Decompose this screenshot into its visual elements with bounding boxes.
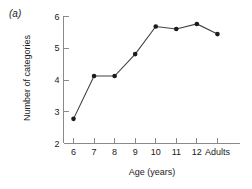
data-point [92, 74, 97, 79]
data-series [71, 22, 220, 122]
data-point [133, 52, 138, 57]
x-tick-labels: 6789101112Adults [71, 147, 230, 157]
data-point [195, 22, 200, 27]
y-tick-marks [64, 17, 69, 144]
x-axis: 6789101112Adults [64, 138, 241, 157]
y-tick-label: 5 [54, 43, 59, 53]
x-tick-marks [74, 138, 218, 143]
line-chart-plot: 23456 6789101112Adults [0, 0, 252, 189]
x-tick-label: 12 [192, 147, 202, 157]
series-line [74, 24, 218, 119]
y-tick-label: 3 [54, 107, 59, 117]
data-point [153, 24, 158, 29]
x-tick-label: 7 [92, 147, 97, 157]
x-tick-label: 11 [172, 147, 181, 157]
x-tick-label: 6 [71, 147, 76, 157]
y-axis: 23456 [54, 12, 68, 149]
data-point [71, 117, 76, 122]
y-tick-label: 4 [54, 75, 59, 85]
x-tick-label: 10 [151, 147, 161, 157]
series-markers [71, 22, 220, 122]
figure-panel: (a) Number of categories Age (years) 234… [0, 0, 252, 189]
x-tick-label: Adults [205, 147, 231, 157]
y-tick-label: 2 [54, 139, 59, 149]
data-point [112, 74, 117, 79]
data-point [174, 27, 179, 32]
x-tick-label: 9 [133, 147, 138, 157]
y-tick-label: 6 [54, 12, 59, 22]
data-point [215, 32, 220, 37]
y-tick-labels: 23456 [54, 12, 59, 149]
x-tick-label: 8 [112, 147, 117, 157]
